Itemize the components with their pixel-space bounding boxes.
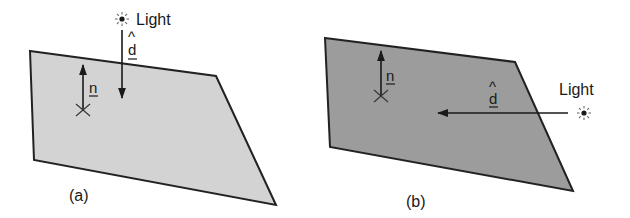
panel-b: n ^ d Light (b)	[325, 38, 594, 210]
panel-a: n ^ d Light (a)	[30, 11, 276, 205]
lighting-diagram: n ^ d Light (a)	[0, 0, 630, 218]
sun-icon	[577, 106, 591, 120]
sun-icon	[115, 12, 129, 26]
panel-caption-a: (a)	[69, 187, 89, 204]
light-direction-label-b: d	[489, 90, 497, 107]
light-label-b: Light	[559, 81, 594, 98]
normal-label-b: n	[386, 67, 394, 84]
normal-label-a: n	[89, 79, 97, 96]
surface-plane-b	[325, 38, 573, 191]
surface-plane-a	[30, 51, 276, 205]
light-direction-label-a: d	[128, 41, 136, 58]
panel-caption-b: (b)	[406, 193, 426, 210]
light-label-a: Light	[136, 11, 171, 28]
